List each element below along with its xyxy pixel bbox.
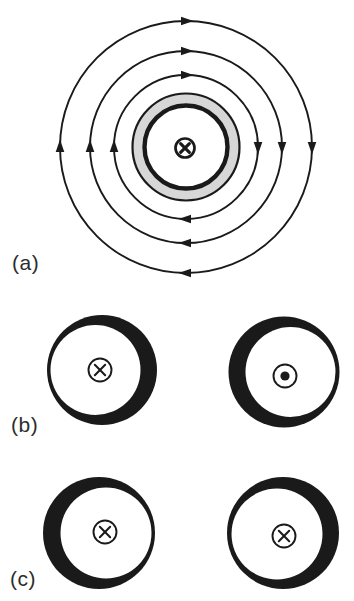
panel-label-a: (a) [12, 252, 39, 273]
current-into-page-symbol [94, 521, 117, 544]
current-into-page-symbol [176, 139, 195, 158]
current-into-page-symbol [273, 525, 296, 548]
magnetic-field-diagram [0, 0, 354, 601]
dot-mark [280, 371, 289, 380]
magnetized-ring-right-thick [47, 315, 157, 425]
panel-c [43, 477, 339, 589]
panel-label-b: (b) [11, 414, 38, 435]
field-direction-arrowhead [110, 140, 119, 153]
field-direction-arrowhead [179, 215, 192, 224]
field-direction-arrowhead [254, 142, 263, 155]
current-into-page-symbol [89, 359, 112, 382]
panel-label-c: (c) [10, 568, 36, 589]
current-out-of-page-symbol [274, 365, 297, 388]
panel-a [56, 17, 317, 278]
field-direction-arrowhead [56, 140, 65, 153]
magnetized-ring-right-thick [227, 477, 339, 589]
field-direction-arrowhead [181, 47, 194, 56]
field-direction-arrowhead [181, 71, 194, 80]
field-direction-arrowhead [278, 142, 287, 155]
magnetized-ring-left-thick [229, 317, 340, 428]
field-direction-arrowhead [308, 142, 317, 155]
figure-canvas: (a) (b) (c) [0, 0, 354, 601]
magnetized-ring-left-thick [43, 477, 155, 589]
field-direction-arrowhead [86, 140, 95, 153]
field-direction-arrowhead [181, 17, 194, 26]
field-direction-arrowhead [179, 239, 192, 248]
panel-b [47, 315, 340, 428]
field-direction-arrowhead [179, 269, 192, 278]
